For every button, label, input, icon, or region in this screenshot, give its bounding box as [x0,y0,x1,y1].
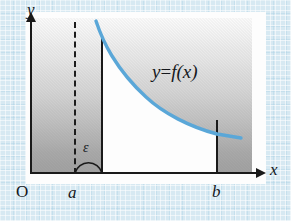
x-axis-label: x [270,161,278,178]
y-axis-label: y [27,1,35,18]
figure-root: y x O a b ε y=f(x) [0,0,291,221]
function-label-fx: f(x) [171,61,197,82]
tick-label-b: b [212,183,221,200]
function-curve [0,0,291,221]
origin-label: O [16,183,28,200]
tick-label-a: a [68,184,77,201]
epsilon-label: ε [83,141,89,155]
function-label: y=f(x) [152,62,198,81]
function-label-equals: = [160,61,171,82]
